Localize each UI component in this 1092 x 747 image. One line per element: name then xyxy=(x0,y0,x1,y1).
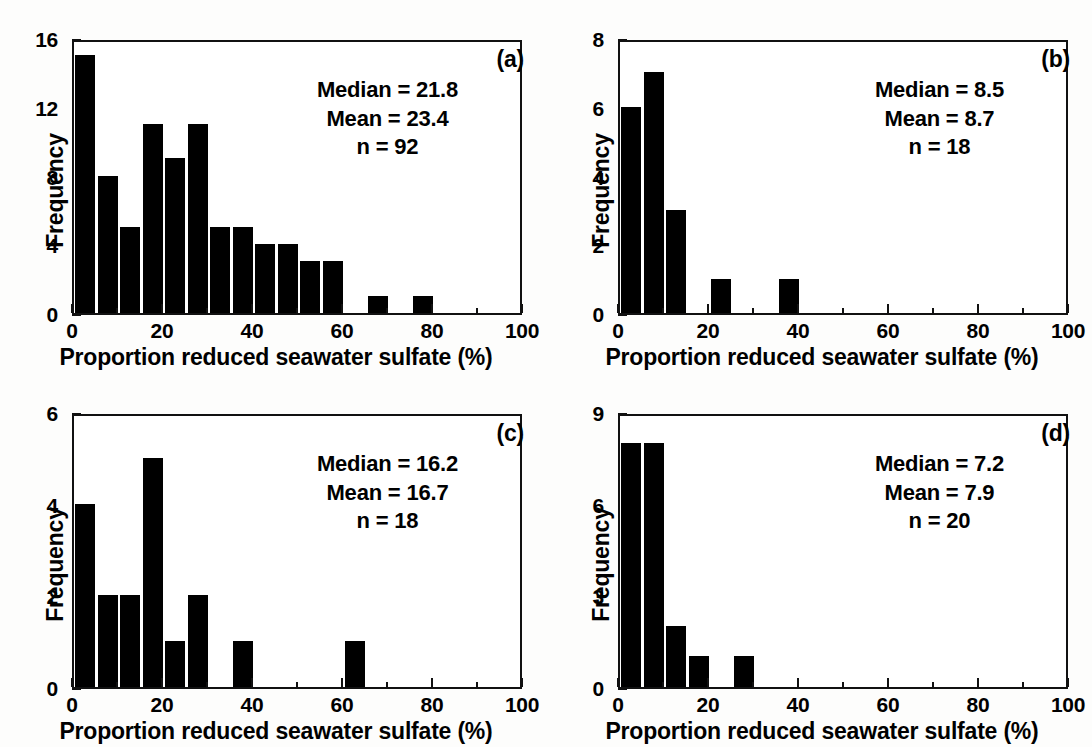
x-tick-label: 80 xyxy=(967,319,990,343)
x-tick-label: 60 xyxy=(877,693,900,717)
median-label-d: Median = 7.2 xyxy=(875,450,1004,479)
panel-letter-c: (c) xyxy=(496,420,524,447)
histogram-bar xyxy=(666,210,686,313)
y-tick-label: 6 xyxy=(593,97,604,121)
x-tick-label: 20 xyxy=(697,319,720,343)
x-tick-minor xyxy=(932,682,934,687)
x-tick-major xyxy=(617,678,619,687)
histogram-bar xyxy=(621,107,641,313)
x-tick-label: 20 xyxy=(151,319,174,343)
y-tick-label: 0 xyxy=(47,303,58,327)
figure-histogram-grid: Frequency 0481216 020406080100 Proportio… xyxy=(0,0,1092,747)
histogram-bar xyxy=(143,458,163,687)
panel-letter-d: (d) xyxy=(1041,420,1070,447)
x-tick-label: 100 xyxy=(505,319,539,343)
histogram-bar xyxy=(188,124,208,313)
y-axis-labels-c: 0246 xyxy=(0,414,68,689)
x-tick-major xyxy=(887,678,889,687)
panel-d: Frequency 0369 020406080100 Proportion r… xyxy=(546,374,1092,747)
x-tick-major xyxy=(71,678,73,687)
x-tick-label: 80 xyxy=(421,693,444,717)
panel-letter-b: (b) xyxy=(1041,46,1070,73)
x-axis-title-b: Proportion reduced seawater sulfate (%) xyxy=(572,344,1072,371)
x-tick-major xyxy=(251,304,253,313)
x-tick-major xyxy=(521,304,523,313)
panel-a: Frequency 0481216 020406080100 Proportio… xyxy=(0,0,546,373)
y-axis-labels-b: 02468 xyxy=(546,40,614,315)
histogram-bar xyxy=(165,158,185,313)
x-tick-major xyxy=(431,304,433,313)
histogram-bar xyxy=(233,227,253,313)
median-label-a: Median = 21.8 xyxy=(317,76,458,105)
histogram-bar xyxy=(210,227,230,313)
x-tick-minor xyxy=(206,308,208,313)
panel-letter-a: (a) xyxy=(496,46,524,73)
histogram-bar xyxy=(165,641,185,687)
histogram-bar xyxy=(75,55,95,313)
y-tick-label: 0 xyxy=(593,303,604,327)
x-tick-minor xyxy=(116,308,118,313)
y-tick-label: 6 xyxy=(47,402,58,426)
x-tick-major xyxy=(341,304,343,313)
x-tick-minor xyxy=(476,308,478,313)
n-label-c: n = 18 xyxy=(317,507,458,536)
x-tick-major xyxy=(71,304,73,313)
histogram-bar xyxy=(255,244,275,313)
y-tick-label: 2 xyxy=(593,234,604,258)
median-label-b: Median = 8.5 xyxy=(875,76,1004,105)
x-tick-label: 40 xyxy=(787,319,810,343)
histogram-bar xyxy=(711,279,731,313)
x-tick-major xyxy=(1067,678,1069,687)
histogram-bar xyxy=(689,656,709,687)
y-tick-label: 8 xyxy=(593,28,604,52)
x-tick-label: 40 xyxy=(787,693,810,717)
n-label-a: n = 92 xyxy=(317,133,458,162)
x-tick-minor xyxy=(1022,308,1024,313)
histogram-bar xyxy=(413,296,433,313)
y-tick-label: 2 xyxy=(47,585,58,609)
x-tick-major xyxy=(797,678,799,687)
histogram-bar xyxy=(621,443,641,687)
mean-label-a: Mean = 23.4 xyxy=(317,105,458,134)
y-tick-label: 0 xyxy=(47,677,58,701)
histogram-bar xyxy=(188,595,208,687)
histogram-bar xyxy=(120,227,140,313)
x-tick-minor xyxy=(296,308,298,313)
x-tick-label: 60 xyxy=(331,693,354,717)
y-axis-labels-d: 0369 xyxy=(546,414,614,689)
stats-block-a: Median = 21.8 Mean = 23.4 n = 92 xyxy=(317,76,458,162)
x-tick-label: 60 xyxy=(877,319,900,343)
histogram-bar xyxy=(734,656,754,687)
x-tick-minor xyxy=(386,308,388,313)
stats-block-b: Median = 8.5 Mean = 8.7 n = 18 xyxy=(875,76,1004,162)
x-tick-minor xyxy=(1022,682,1024,687)
x-tick-label: 0 xyxy=(612,319,623,343)
x-tick-minor xyxy=(662,308,664,313)
x-tick-label: 80 xyxy=(967,693,990,717)
x-tick-minor xyxy=(476,682,478,687)
x-tick-minor xyxy=(296,682,298,687)
x-tick-minor xyxy=(206,682,208,687)
x-tick-label: 100 xyxy=(1051,693,1085,717)
x-tick-minor xyxy=(932,308,934,313)
x-tick-major xyxy=(251,678,253,687)
histogram-bar xyxy=(75,504,95,687)
x-tick-minor xyxy=(662,682,664,687)
x-tick-major xyxy=(341,678,343,687)
x-tick-minor xyxy=(116,682,118,687)
x-tick-major xyxy=(161,304,163,313)
x-tick-label: 100 xyxy=(505,693,539,717)
x-tick-label: 40 xyxy=(241,693,264,717)
histogram-bar xyxy=(368,296,388,313)
x-tick-major xyxy=(617,304,619,313)
panel-c: Frequency 0246 020406080100 Proportion r… xyxy=(0,374,546,747)
histogram-bar xyxy=(233,641,253,687)
y-tick-label: 9 xyxy=(593,402,604,426)
x-tick-label: 20 xyxy=(697,693,720,717)
x-axis-title-c: Proportion reduced seawater sulfate (%) xyxy=(26,718,526,745)
histogram-bar xyxy=(98,595,118,687)
histogram-bar xyxy=(120,595,140,687)
x-tick-label: 100 xyxy=(1051,319,1085,343)
stats-block-d: Median = 7.2 Mean = 7.9 n = 20 xyxy=(875,450,1004,536)
x-tick-major xyxy=(977,304,979,313)
